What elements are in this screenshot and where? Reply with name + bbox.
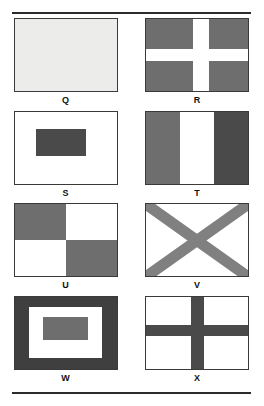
flag-s-center-rect — [36, 129, 86, 156]
flag-cell-u: U — [0, 203, 132, 296]
flag-v — [145, 203, 249, 277]
flag-q-field — [15, 19, 117, 91]
flag-u — [14, 203, 118, 277]
flag-cell-x: X — [132, 296, 264, 389]
flag-cell-v: V — [132, 203, 264, 296]
flag-cell-t: T — [132, 111, 264, 204]
flag-t-band-center — [180, 112, 214, 184]
flag-w — [14, 296, 118, 370]
flag-t-band-left — [146, 112, 180, 184]
flag-x — [145, 296, 249, 370]
flag-t — [145, 111, 249, 185]
flag-w-inner-rect — [43, 317, 88, 341]
flag-cell-r: R — [132, 18, 264, 111]
flag-r — [145, 18, 249, 92]
bottom-divider-rule — [12, 392, 251, 394]
flag-label-s: S — [63, 188, 69, 199]
flag-label-q: Q — [62, 95, 69, 106]
flag-label-t: T — [194, 188, 200, 199]
flag-label-u: U — [62, 280, 69, 291]
flag-cell-q: Q — [0, 18, 132, 111]
flag-x-cross-vertical — [191, 297, 204, 369]
flag-label-r: R — [194, 95, 201, 106]
flag-r-cross-vertical — [193, 19, 209, 91]
flag-cell-w: W — [0, 296, 132, 389]
flag-u-quarter-bottom-right — [66, 240, 117, 276]
flag-q — [14, 18, 118, 92]
flag-u-quarter-top-left — [15, 204, 66, 240]
flag-label-w: W — [61, 373, 70, 384]
flag-t-band-right — [214, 112, 248, 184]
flag-u-quarter-bottom-left — [15, 240, 66, 276]
flag-label-v: V — [194, 280, 200, 291]
top-divider-rule — [12, 12, 251, 14]
flag-s — [14, 111, 118, 185]
flag-grid: Q R S T — [0, 18, 263, 388]
figure-page: Q R S T — [0, 0, 263, 406]
flag-label-x: X — [194, 373, 200, 384]
flag-u-quarter-top-right — [66, 204, 117, 240]
flag-cell-s: S — [0, 111, 132, 204]
